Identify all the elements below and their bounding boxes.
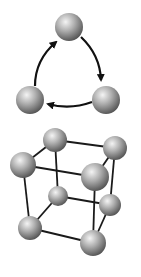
diagram-canvas xyxy=(0,0,141,277)
sphere-front-bottom-left xyxy=(18,216,42,240)
sphere-back-bottom-right xyxy=(99,194,121,216)
sphere-front-top-left xyxy=(10,152,36,178)
sphere-back-bottom-left xyxy=(48,186,68,206)
sphere-bottom-right xyxy=(92,86,120,114)
arrow-bottom-left-to-top xyxy=(35,42,56,86)
sphere-front-bottom-right xyxy=(80,230,106,256)
sphere-top xyxy=(55,13,83,41)
sphere-front-top-right xyxy=(81,163,109,191)
sphere-back-top-left xyxy=(43,128,67,152)
sphere-bottom-left xyxy=(16,86,44,114)
arrow-bottom-right-to-bottom-left xyxy=(48,102,92,107)
cycle-diagram xyxy=(16,13,120,114)
sphere-back-top-right xyxy=(103,136,127,160)
arrow-top-to-bottom-right xyxy=(81,37,101,80)
